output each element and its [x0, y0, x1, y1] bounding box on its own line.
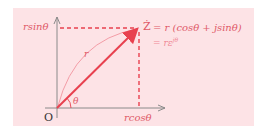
equation-line-2: = rεjθ: [153, 36, 178, 48]
phasor-arrow: [57, 30, 136, 108]
label-origin: O: [44, 111, 53, 124]
label-r: r: [84, 49, 88, 59]
equation-line-1: = r (cosθ + jsinθ): [153, 22, 242, 33]
label-rcos-theta: rcosθ: [124, 112, 152, 123]
label-phasor-z: Ż: [143, 20, 151, 33]
equation-line-2-base: = rε: [153, 38, 173, 48]
equation-line-2-exponent: jθ: [173, 36, 178, 43]
label-rsin-theta: rsinθ: [23, 21, 49, 32]
angle-arc: [67, 98, 71, 108]
label-theta: θ: [73, 96, 78, 106]
